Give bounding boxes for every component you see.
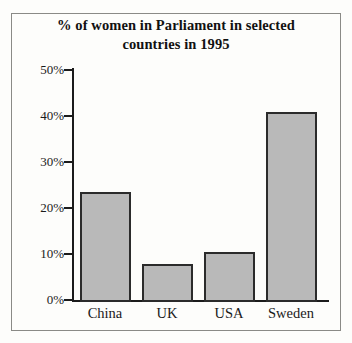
y-tick-label: 20%	[24, 200, 64, 216]
x-tick-label-china: China	[74, 305, 136, 322]
y-tick-mark	[64, 299, 73, 301]
y-tick-mark	[64, 207, 73, 209]
y-tick-label: 40%	[24, 108, 64, 124]
chart-figure: % of women in Parliament in selected cou…	[0, 0, 352, 343]
x-tick-label-uk: UK	[136, 305, 198, 322]
y-tick-label: 0%	[24, 292, 64, 308]
x-tick-label-usa: USA	[198, 305, 260, 322]
plot-area: 0%10%20%30%40%50% ChinaUKUSASweden	[0, 0, 352, 343]
y-tick-mark	[64, 115, 73, 117]
y-axis-line	[72, 68, 74, 302]
bar-china	[80, 192, 131, 302]
y-tick-label: 50%	[24, 62, 64, 78]
bar-uk	[142, 264, 193, 302]
y-tick-label: 30%	[24, 154, 64, 170]
y-tick-label: 10%	[24, 246, 64, 262]
bar-usa	[204, 252, 255, 302]
y-tick-mark	[64, 69, 73, 71]
y-tick-mark	[64, 253, 73, 255]
x-tick-label-sweden: Sweden	[260, 305, 322, 322]
y-tick-mark	[64, 161, 73, 163]
bar-sweden	[266, 112, 317, 302]
